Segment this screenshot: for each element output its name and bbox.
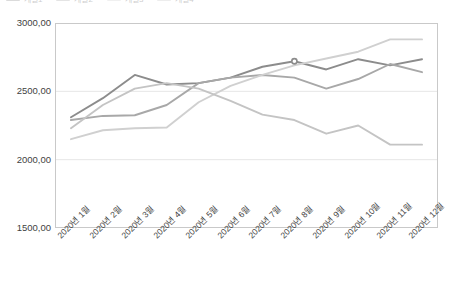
y-axis-tick-label: 1500,00	[17, 223, 51, 233]
y-axis: 3000,002500,002000,001500,00	[0, 0, 51, 286]
legend-swatch-icon	[107, 0, 121, 1]
legend-entry[interactable]: 계열3	[107, 0, 143, 4]
legend-swatch-icon	[157, 0, 171, 1]
y-axis-tick-label: 3000,00	[17, 18, 51, 28]
data-point-marker	[292, 59, 297, 64]
legend-entry[interactable]: 계열4	[157, 0, 193, 4]
series-line-3	[71, 39, 422, 139]
line-chart-svg	[55, 23, 438, 228]
legend-swatch-icon	[56, 0, 70, 1]
y-axis-tick-label: 2500,00	[17, 86, 51, 96]
gridlines	[55, 91, 438, 159]
legend-label: 계열4	[175, 0, 193, 4]
chart-legend: 계열1계열2계열3계열4	[0, 0, 450, 7]
legend-label: 계열3	[125, 0, 143, 4]
legend-label: 계열2	[74, 0, 92, 4]
chart-screenshot: 계열1계열2계열3계열4 3000,002500,002000,001500,0…	[0, 0, 450, 286]
data-point-markers	[292, 59, 297, 64]
plot-area	[55, 23, 438, 228]
data-series-group	[71, 39, 422, 144]
legend-entry[interactable]: 계열2	[56, 0, 92, 4]
series-line-4	[71, 83, 422, 145]
y-axis-tick-label: 2000,00	[17, 155, 51, 165]
plot-border	[56, 24, 438, 228]
